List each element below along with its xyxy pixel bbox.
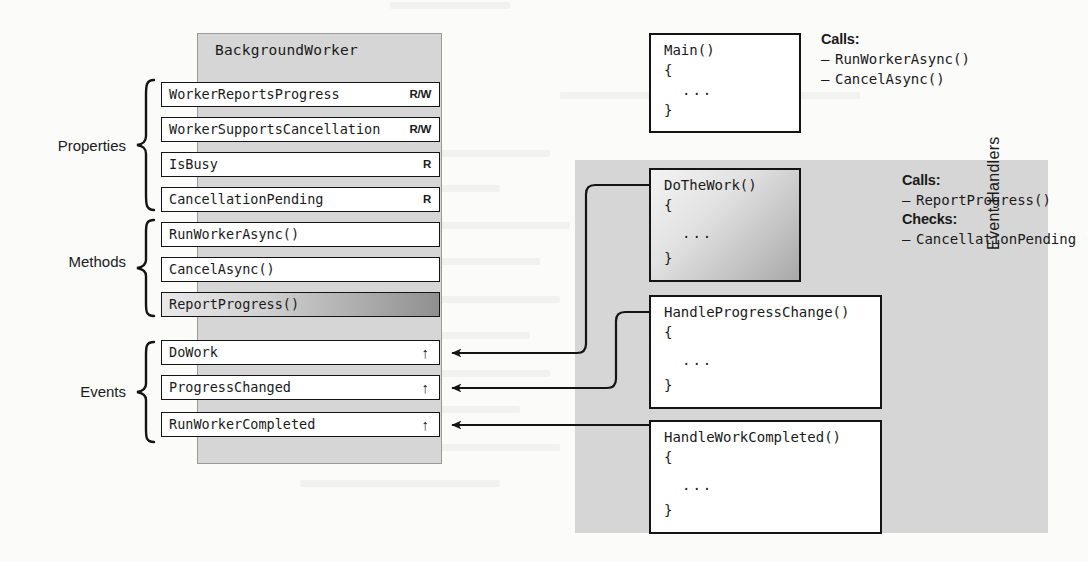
method-row[interactable]: CancelAsync() xyxy=(161,257,440,282)
annotation-dothework-calls: Calls: –ReportProgress() Checks: –Cancel… xyxy=(902,171,1076,249)
code-brace-close: } xyxy=(664,377,672,393)
group-caption-methods: Methods xyxy=(16,253,126,270)
code-brace-open: { xyxy=(664,197,672,213)
group-caption-events: Events xyxy=(16,383,126,400)
code-block-main[interactable]: Main() { ... } xyxy=(649,33,801,133)
code-brace-open: { xyxy=(664,324,672,340)
row-label: CancellationPending xyxy=(169,188,323,211)
code-brace-open: { xyxy=(664,62,672,78)
property-row[interactable]: WorkerSupportsCancellation R/W xyxy=(161,117,440,142)
code-brace-close: } xyxy=(664,250,672,266)
annotation-item: –CancellationPending xyxy=(902,229,1076,249)
code-block-handleprogresschange[interactable]: HandleProgressChange() { ... } xyxy=(649,295,882,409)
row-label: ProgressChanged xyxy=(169,376,291,399)
row-access-badge: R/W xyxy=(410,83,431,106)
code-block-dothework[interactable]: DoTheWork() { ... } xyxy=(649,168,801,282)
event-up-arrow-icon: ↑ xyxy=(422,413,430,436)
code-brace-open: { xyxy=(664,449,672,465)
property-row[interactable]: WorkerReportsProgress R/W xyxy=(161,82,440,107)
method-row[interactable]: RunWorkerAsync() xyxy=(161,222,440,247)
code-block-handleworkcompleted[interactable]: HandleWorkCompleted() { ... } xyxy=(649,420,882,534)
brace-properties xyxy=(134,78,156,212)
code-body-ellipsis: ... xyxy=(682,352,713,368)
class-title: BackgroundWorker xyxy=(215,38,430,62)
bullet-dash: – xyxy=(821,49,835,69)
code-signature: HandleProgressChange() xyxy=(664,304,849,320)
event-up-arrow-icon: ↑ xyxy=(422,376,430,399)
property-row[interactable]: IsBusy R xyxy=(161,152,440,177)
code-body-ellipsis: ... xyxy=(682,477,713,493)
row-access-badge: R xyxy=(423,153,431,176)
annotation-main-calls: Calls: –RunWorkerAsync() –CancelAsync() xyxy=(821,30,970,89)
row-access-badge: R/W xyxy=(410,118,431,141)
annotation-heading: Checks: xyxy=(902,210,1076,229)
row-label: CancelAsync() xyxy=(169,258,275,281)
row-label: DoWork xyxy=(169,341,218,364)
brace-events xyxy=(134,340,156,444)
code-body-ellipsis: ... xyxy=(682,225,713,241)
row-access-badge: R xyxy=(423,188,431,211)
row-label: ReportProgress() xyxy=(169,293,299,316)
row-label: WorkerReportsProgress xyxy=(169,83,340,106)
event-up-arrow-icon: ↑ xyxy=(422,341,430,364)
code-signature: HandleWorkCompleted() xyxy=(664,429,841,445)
row-label: RunWorkerAsync() xyxy=(169,223,299,246)
bullet-dash: – xyxy=(902,229,916,249)
code-brace-close: } xyxy=(664,502,672,518)
row-label: RunWorkerCompleted xyxy=(169,413,315,436)
group-caption-properties: Properties xyxy=(16,137,126,154)
event-row[interactable]: RunWorkerCompleted ↑ xyxy=(161,412,440,437)
method-row-highlighted[interactable]: ReportProgress() xyxy=(161,292,440,317)
brace-methods xyxy=(134,218,156,318)
bullet-dash: – xyxy=(902,190,916,210)
event-row[interactable]: ProgressChanged ↑ xyxy=(161,375,440,400)
property-row[interactable]: CancellationPending R xyxy=(161,187,440,212)
row-label: IsBusy xyxy=(169,153,218,176)
code-signature: Main() xyxy=(664,42,715,58)
row-label: WorkerSupportsCancellation xyxy=(169,118,380,141)
annotation-heading: Calls: xyxy=(902,171,1076,190)
bullet-dash: – xyxy=(821,69,835,89)
annotation-item: –ReportProgress() xyxy=(902,190,1076,210)
code-brace-close: } xyxy=(664,102,672,118)
annotation-item: –CancelAsync() xyxy=(821,69,970,89)
annotation-heading: Calls: xyxy=(821,30,970,49)
code-signature: DoTheWork() xyxy=(664,177,757,193)
code-body-ellipsis: ... xyxy=(682,82,713,98)
annotation-item: –RunWorkerAsync() xyxy=(821,49,970,69)
event-row[interactable]: DoWork ↑ xyxy=(161,340,440,365)
